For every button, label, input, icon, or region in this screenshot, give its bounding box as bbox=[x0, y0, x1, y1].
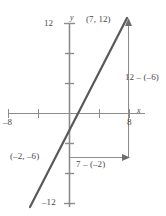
run-annotation-label: 7 – (–2) bbox=[76, 159, 105, 169]
coordinate-plane-figure: 12 y –12 –8 8 x (7, 12) (–2, –6) 12 – (–… bbox=[0, 0, 166, 216]
x-axis-min-tick-label: –8 bbox=[3, 117, 12, 127]
plotted-line bbox=[30, 18, 127, 207]
y-axis bbox=[64, 23, 75, 207]
y-axis-name-label: y bbox=[70, 13, 74, 23]
y-axis-max-tick-label: 12 bbox=[44, 18, 53, 28]
point-label-upper: (7, 12) bbox=[86, 14, 111, 24]
x-axis-max-tick-label: 8 bbox=[127, 117, 132, 127]
rise-arrow bbox=[125, 18, 132, 157]
y-axis-min-tick-label: –12 bbox=[42, 197, 56, 207]
point-label-lower: (–2, –6) bbox=[10, 151, 39, 161]
x-axis-name-label: x bbox=[137, 106, 141, 116]
plot-canvas bbox=[0, 0, 166, 216]
rise-annotation-label: 12 – (–6) bbox=[125, 72, 159, 82]
